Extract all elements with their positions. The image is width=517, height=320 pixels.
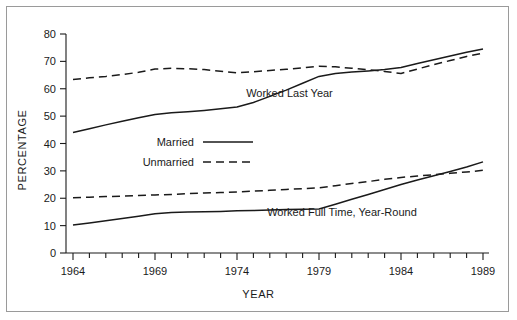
- x-axis-tick-labels: 196419691974197919841989: [61, 265, 495, 277]
- svg-text:50: 50: [44, 110, 56, 122]
- svg-text:70: 70: [44, 55, 56, 67]
- series-line-worked-last-year-unmarried: [73, 53, 483, 79]
- chart-legend: Married Unmarried: [143, 136, 253, 168]
- y-axis-tick-labels: 01020304050607080: [44, 28, 56, 259]
- svg-text:1974: 1974: [225, 265, 249, 277]
- x-axis-ticks: [73, 253, 483, 260]
- svg-text:10: 10: [44, 220, 56, 232]
- chart-figure: 01020304050607080 1964196919741979198419…: [0, 0, 517, 320]
- svg-text:60: 60: [44, 83, 56, 95]
- svg-text:1969: 1969: [143, 265, 167, 277]
- svg-text:1979: 1979: [307, 265, 331, 277]
- y-axis-label: PERCENTAGE: [16, 110, 28, 191]
- svg-text:20: 20: [44, 192, 56, 204]
- svg-text:80: 80: [44, 28, 56, 40]
- x-axis-label: YEAR: [0, 288, 517, 300]
- legend-label-married: Married: [157, 136, 194, 148]
- series-annotations: Worked Last YearWorked Full Time, Year-R…: [246, 87, 417, 218]
- legend-label-unmarried: Unmarried: [143, 156, 194, 168]
- svg-text:1964: 1964: [61, 265, 85, 277]
- svg-text:40: 40: [44, 138, 56, 150]
- data-series-group: [73, 49, 483, 225]
- series-line-worked-full-time-year-round-unmarried: [73, 170, 483, 197]
- annotation-1: Worked Full Time, Year-Round: [267, 206, 417, 218]
- svg-text:30: 30: [44, 165, 56, 177]
- y-axis-ticks: [60, 34, 66, 253]
- line-chart-plot: 01020304050607080 1964196919741979198419…: [0, 0, 517, 320]
- y-axis-label-wrap: PERCENTAGE: [14, 90, 30, 210]
- annotation-0: Worked Last Year: [246, 87, 333, 99]
- svg-text:1989: 1989: [471, 265, 495, 277]
- svg-text:1984: 1984: [389, 265, 413, 277]
- svg-text:0: 0: [50, 247, 56, 259]
